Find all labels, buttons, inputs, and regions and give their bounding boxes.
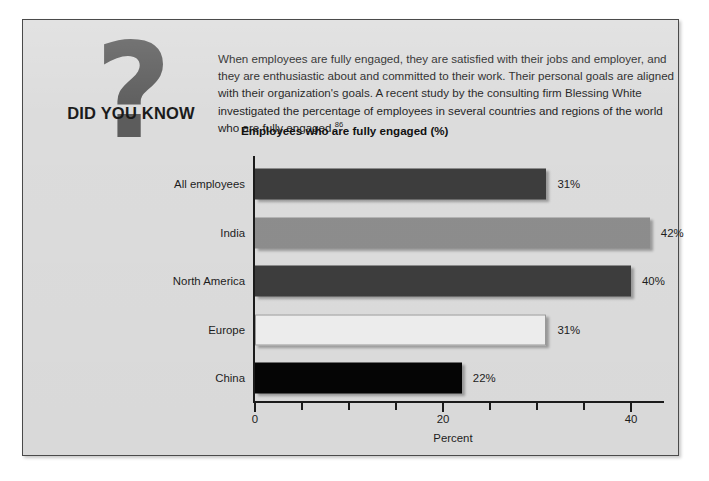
x-tick-major bbox=[630, 403, 632, 412]
bar-category-label-wrap: North America bbox=[85, 257, 253, 305]
bar-category-label: India bbox=[93, 227, 253, 239]
bar-row: North America40% bbox=[23, 257, 680, 305]
bar-value-label: 31% bbox=[557, 324, 580, 336]
chart-title: Employees who are fully engaged (%) bbox=[241, 124, 448, 137]
bar-category-label-wrap: Europe bbox=[85, 306, 253, 354]
bar-value-label: 42% bbox=[661, 227, 684, 239]
x-tick-label: 40 bbox=[625, 413, 638, 425]
x-tick-label: 0 bbox=[252, 413, 258, 425]
bar-category-label: Europe bbox=[93, 324, 253, 336]
x-tick-minor bbox=[348, 403, 349, 410]
x-tick-minor bbox=[536, 403, 537, 410]
x-tick-minor bbox=[583, 403, 584, 410]
bar-category-label: China bbox=[93, 372, 253, 384]
bar bbox=[255, 314, 546, 345]
bar bbox=[255, 217, 650, 248]
x-tick-label: 20 bbox=[437, 413, 450, 425]
bar-row: China22% bbox=[23, 354, 680, 402]
bar-category-label: North America bbox=[93, 275, 253, 287]
bar-category-label-wrap: India bbox=[85, 209, 253, 257]
bar-row: All employees31% bbox=[23, 160, 680, 208]
bar-row: Europe31% bbox=[23, 306, 680, 354]
engagement-bar-chart: Employees who are fully engaged (%) All … bbox=[23, 20, 680, 457]
bar-category-label-wrap: China bbox=[85, 354, 253, 402]
x-tick-minor bbox=[301, 403, 302, 410]
bar bbox=[255, 266, 631, 297]
x-tick-major bbox=[254, 403, 256, 412]
page-canvas: ? DID YOU KNOW When employees are fully … bbox=[0, 0, 709, 481]
bar-category-label: All employees bbox=[93, 178, 253, 190]
x-axis-label: Percent bbox=[433, 432, 472, 444]
bar-value-label: 31% bbox=[557, 178, 580, 190]
bar-row: India42% bbox=[23, 209, 680, 257]
bar-category-label-wrap: All employees bbox=[85, 160, 253, 208]
bar bbox=[255, 169, 546, 200]
bar-value-label: 22% bbox=[473, 372, 496, 384]
x-tick-minor bbox=[489, 403, 490, 410]
x-tick-minor bbox=[395, 403, 396, 410]
did-you-know-panel: ? DID YOU KNOW When employees are fully … bbox=[22, 19, 679, 456]
bar-value-label: 40% bbox=[642, 275, 665, 287]
x-tick-major bbox=[442, 403, 444, 412]
bar bbox=[255, 363, 462, 394]
